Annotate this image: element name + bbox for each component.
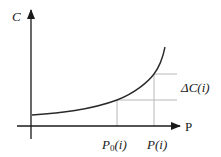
x-axis-label: P <box>185 119 192 134</box>
y-axis-label: C <box>12 9 21 24</box>
p-label: P(i) <box>146 137 167 152</box>
p0-label-main: P <box>101 137 110 152</box>
delta-c-label: ΔC(i) <box>180 80 210 95</box>
p0-label: P0(i) <box>101 137 127 153</box>
cost-curve <box>32 47 165 115</box>
p0-label-tail: (i) <box>114 137 126 152</box>
diagram-canvas: C P P0(i) P(i) ΔC(i) <box>0 0 221 157</box>
cost-curve-diagram: C P P0(i) P(i) ΔC(i) <box>0 0 221 157</box>
